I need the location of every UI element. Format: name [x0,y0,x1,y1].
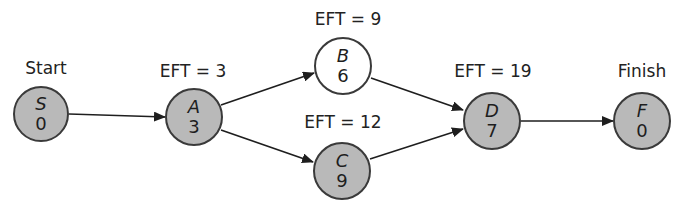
node-name: A [188,97,200,117]
node-label-b: EFT = 9 [315,11,381,28]
node-duration: 0 [35,114,46,134]
edge-a-to-c [221,130,313,162]
edge-s-to-a [69,114,165,117]
node-f: F0 [613,92,671,150]
node-label-s: Start [25,60,67,77]
activity-network-diagram: S0A3B6C9D7F0 StartEFT = 3EFT = 9EFT = 12… [0,0,675,202]
node-duration: 7 [486,121,497,141]
edge-b-to-d [371,78,463,110]
node-c: C9 [313,142,371,200]
node-name: S [35,94,46,114]
edge-a-to-b [221,73,314,105]
edge-c-to-d [370,129,463,159]
node-duration: 6 [337,66,348,86]
node-label-c: EFT = 12 [304,114,381,131]
node-s: S0 [13,86,69,142]
node-duration: 3 [188,117,199,137]
node-duration: 9 [336,171,347,191]
node-b: B6 [314,37,372,95]
node-name: F [637,101,647,121]
node-label-f: Finish [618,63,666,80]
node-a: A3 [165,88,223,146]
node-duration: 0 [636,121,647,141]
node-label-d: EFT = 19 [454,63,531,80]
node-name: B [337,46,349,66]
node-name: C [336,151,349,171]
node-label-a: EFT = 3 [160,63,226,80]
node-name: D [485,101,499,121]
node-d: D7 [463,92,521,150]
